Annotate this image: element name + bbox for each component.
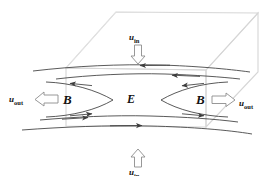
- outflow-right-subscript: out: [244, 103, 253, 110]
- field-line-top-inner: [56, 74, 240, 79]
- outflow-left-arrow: [35, 92, 58, 106]
- box-inner-edge: [66, 12, 116, 68]
- inflow-bottom-label: uin: [129, 168, 139, 176]
- inflow-top-subscript: in: [134, 37, 139, 44]
- magnetic-field-left-label: B: [63, 93, 72, 106]
- outflow-left-label: uout: [9, 95, 23, 106]
- outflow-left-subscript: out: [14, 99, 23, 106]
- inflow-top-arrow: [131, 45, 145, 64]
- box-front-face: [66, 68, 206, 127]
- diagram-canvas: [0, 0, 274, 176]
- inflow-bottom-subscript: in: [134, 172, 139, 176]
- box-top-face: [66, 12, 258, 70]
- inflow-top-label: uin: [129, 33, 139, 44]
- outflow-right-arrow: [212, 93, 235, 107]
- inflow-bottom-arrow: [131, 149, 145, 167]
- magnetic-field-right-label: B: [196, 93, 205, 106]
- reconnection-diagram: uin uin uout uout B B E: [0, 0, 274, 176]
- electric-field-label: E: [127, 93, 135, 105]
- outflow-right-label: uout: [239, 99, 253, 110]
